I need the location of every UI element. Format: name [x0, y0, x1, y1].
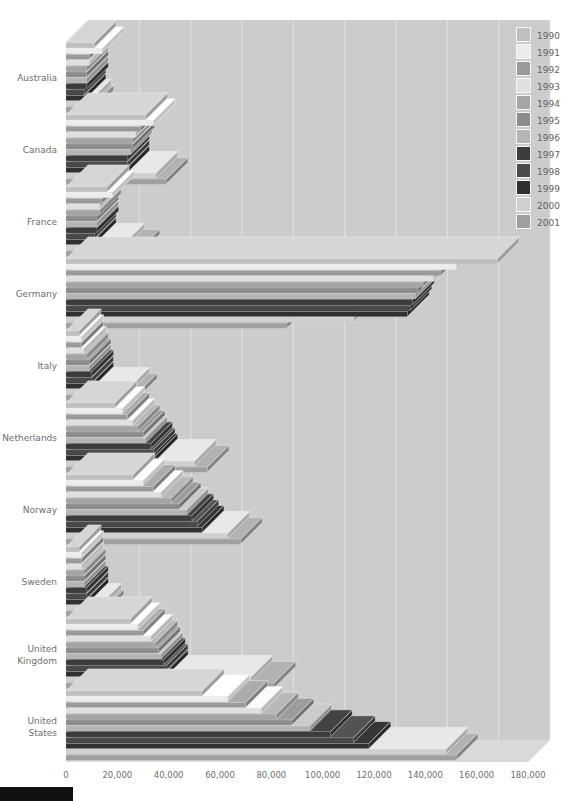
- bar-front-face: [66, 697, 228, 702]
- bar-front-face: [66, 366, 89, 371]
- legend-label: 2000: [537, 201, 560, 211]
- legend-label: 1991: [537, 48, 560, 58]
- bar-front-face: [66, 55, 89, 60]
- category-label: Kingdom: [17, 656, 57, 666]
- bar-front-face: [66, 66, 87, 71]
- legend-swatch: [517, 181, 530, 194]
- legend-swatch: [517, 113, 530, 126]
- bar-front-face: [66, 288, 418, 293]
- bar-front-face: [66, 636, 151, 641]
- bar-front-face: [66, 343, 81, 348]
- bar-front-face: [66, 49, 102, 54]
- bar-front-face: [66, 150, 130, 155]
- legend-label: 1998: [537, 167, 560, 177]
- bar-front-face: [66, 553, 81, 558]
- x-tick-label: 60,000: [205, 770, 235, 780]
- bar-front-face: [66, 312, 407, 317]
- x-tick-label: 140,000: [408, 770, 443, 780]
- bar-front-face: [66, 726, 310, 731]
- bar-front-face: [66, 564, 81, 569]
- bar-front-face: [66, 199, 102, 204]
- x-tick-label: 160,000: [459, 770, 494, 780]
- bar: [66, 669, 224, 696]
- bar-front-face: [66, 703, 246, 708]
- bar-front-face: [66, 498, 171, 503]
- bar-front-face: [66, 492, 161, 497]
- legend-swatch: [517, 45, 530, 58]
- bar-front-face: [66, 372, 92, 377]
- legend-label: 1990: [537, 31, 560, 41]
- category-label: Netherlands: [2, 433, 57, 443]
- bar-front-face: [66, 510, 187, 515]
- bar-front-face: [66, 127, 140, 132]
- bar-front-face: [66, 714, 276, 719]
- bar-front-face: [66, 691, 202, 696]
- bar-front-face: [66, 90, 84, 95]
- bar-front-face: [66, 594, 87, 599]
- legend-swatch: [517, 96, 530, 109]
- category-label: Norway: [23, 505, 58, 515]
- bar-front-face: [66, 444, 151, 449]
- bar-front-face: [66, 204, 99, 209]
- horizontal-bar-chart: AustraliaCanadaFranceGermanyItalyNetherl…: [0, 0, 584, 801]
- bar-front-face: [66, 348, 84, 353]
- legend-label: 1992: [537, 65, 560, 75]
- x-tick-label: 20,000: [102, 770, 132, 780]
- bar-front-face: [66, 415, 128, 420]
- bar-front-face: [66, 648, 158, 653]
- category-label: Australia: [17, 73, 57, 83]
- bar-front-face: [66, 588, 87, 593]
- bar-front-face: [66, 306, 410, 311]
- bar-front-face: [66, 708, 261, 713]
- legend-swatch: [517, 79, 530, 92]
- bar-front-face: [66, 216, 97, 221]
- x-tick-label: 100,000: [305, 770, 340, 780]
- bar-front-face: [66, 210, 99, 215]
- bar-front-face: [66, 660, 164, 665]
- bar-front-face: [66, 276, 433, 281]
- category-label: Germany: [16, 289, 58, 299]
- bar-front-face: [66, 744, 369, 749]
- bar-front-face: [66, 193, 112, 198]
- category-label: States: [28, 728, 57, 738]
- bar-front-face: [66, 582, 84, 587]
- chart-container: AustraliaCanadaFranceGermanyItalyNetherl…: [0, 0, 584, 801]
- bar-top-face: [66, 669, 224, 691]
- bar-front-face: [66, 426, 138, 431]
- legend-label: 1995: [537, 116, 560, 126]
- bar-front-face: [66, 294, 415, 299]
- x-tick-label: 80,000: [256, 770, 286, 780]
- bar-front-face: [66, 409, 122, 414]
- bar-front-face: [66, 642, 156, 647]
- bar-front-face: [66, 755, 456, 760]
- bar-front-face: [66, 432, 143, 437]
- bar-front-face: [66, 78, 87, 83]
- legend-label: 1999: [537, 184, 560, 194]
- bar-front-face: [66, 438, 146, 443]
- bar-front-face: [66, 317, 353, 322]
- bar-front-face: [66, 625, 138, 630]
- bar-front-face: [66, 156, 128, 161]
- bar-front-face: [66, 271, 441, 276]
- bar-front-face: [66, 720, 292, 725]
- legend-swatch: [517, 198, 530, 211]
- bar-front-face: [66, 138, 133, 143]
- bar-front-face: [66, 619, 130, 624]
- bar-front-face: [66, 749, 446, 754]
- bar-front-face: [66, 84, 87, 89]
- bar-front-face: [66, 570, 84, 575]
- legend-swatch: [517, 62, 530, 75]
- legend-label: 2001: [537, 218, 560, 228]
- bar-front-face: [66, 259, 497, 264]
- x-tick-label: 0: [63, 770, 68, 780]
- bar-front-face: [66, 354, 87, 359]
- bar-front-face: [66, 654, 161, 659]
- category-label: France: [27, 217, 57, 227]
- legend-label: 1994: [537, 99, 560, 109]
- bar-front-face: [66, 732, 330, 737]
- bar-front-face: [66, 504, 179, 509]
- bar-front-face: [66, 121, 153, 126]
- legend-swatch: [517, 215, 530, 228]
- bar-front-face: [66, 516, 192, 521]
- bar-front-face: [66, 420, 133, 425]
